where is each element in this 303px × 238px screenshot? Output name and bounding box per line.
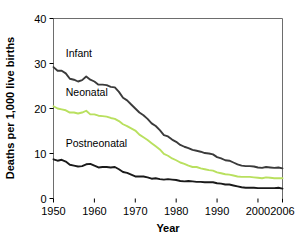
series-inline-labels: InfantNeonatalPostneonatal <box>66 47 127 149</box>
series-label-neonatal: Neonatal <box>66 86 108 98</box>
x-axis-ticks: 1950196019701980199020002006 <box>41 199 294 217</box>
y-tick-label: 20 <box>34 103 46 115</box>
axis-spines <box>54 19 283 199</box>
x-tick-label: 2000 <box>246 205 270 217</box>
y-axis-ticks: 010203040 <box>34 13 53 205</box>
x-tick-label: 2006 <box>270 205 294 217</box>
y-tick-label: 0 <box>40 193 46 205</box>
x-tick-label: 1950 <box>41 205 65 217</box>
x-tick-label: 1960 <box>82 205 106 217</box>
x-axis-title: Year <box>156 222 180 234</box>
x-tick-label: 1990 <box>205 205 229 217</box>
series-label-postneonatal: Postneonatal <box>66 137 127 149</box>
y-tick-label: 10 <box>34 148 46 160</box>
y-tick-label: 30 <box>34 58 46 70</box>
y-tick-label: 40 <box>34 13 46 25</box>
series-line-postneonatal <box>54 159 283 188</box>
chart-canvas: 010203040 1950196019701980199020002006 I… <box>0 0 303 238</box>
infant-mortality-line-chart: 010203040 1950196019701980199020002006 I… <box>0 0 303 238</box>
series-line-infant <box>54 67 283 168</box>
x-tick-label: 1980 <box>164 205 188 217</box>
x-tick-label: 1970 <box>123 205 147 217</box>
y-axis-title: Deaths per 1,000 live births <box>4 37 16 179</box>
series-label-infant: Infant <box>66 47 92 59</box>
